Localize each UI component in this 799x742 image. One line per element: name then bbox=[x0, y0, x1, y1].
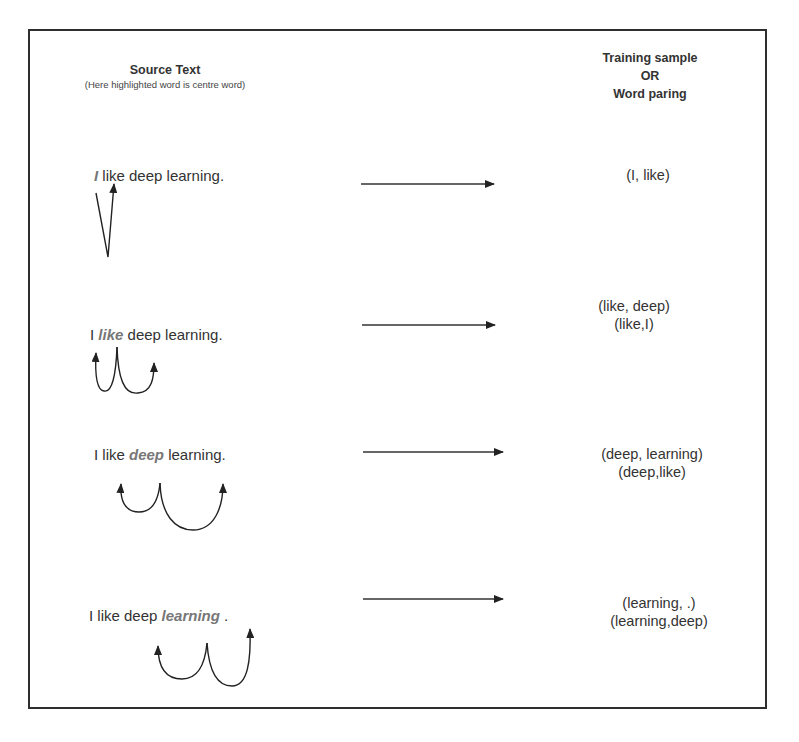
context-arrow-icon bbox=[121, 483, 223, 530]
context-arrow-icon bbox=[158, 629, 250, 686]
context-arrow-icon bbox=[96, 184, 114, 257]
arrows-layer bbox=[0, 0, 799, 742]
context-arrow-icon bbox=[96, 347, 154, 393]
